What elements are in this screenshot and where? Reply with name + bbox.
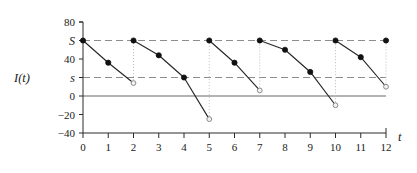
data-point-open-0	[131, 81, 136, 86]
x-tick-label-11: 11	[355, 141, 366, 153]
data-point-filled-5	[207, 38, 212, 43]
data-point-filled-8	[282, 47, 287, 52]
x-tick-label-7: 7	[257, 141, 263, 153]
x-tick-label-8: 8	[282, 141, 288, 153]
data-point-open-3	[333, 103, 338, 108]
data-point-filled-9	[308, 69, 313, 74]
y-axis-ticks-group: 80S40s0−20−40	[58, 16, 83, 139]
data-point-filled-10	[333, 38, 338, 43]
y-tick-label--20: −20	[58, 109, 76, 121]
y-tick-label--40: −40	[58, 127, 76, 139]
series-path-cycle-2	[134, 41, 210, 120]
x-tick-label-1: 1	[106, 141, 112, 153]
y-tick-label-0: 0	[70, 90, 76, 102]
x-tick-label-10: 10	[330, 141, 342, 153]
inventory-level-chart: 80S40s0−20−40 0123456789101112 I(t)t	[0, 0, 417, 173]
x-tick-label-5: 5	[207, 141, 213, 153]
y-tick-label-s: s	[70, 71, 75, 85]
data-point-filled-1	[106, 60, 111, 65]
data-point-filled-3	[156, 53, 161, 58]
data-point-open-4	[384, 84, 389, 89]
data-point-filled-4	[181, 75, 186, 80]
x-axis-label: t	[398, 130, 402, 144]
y-tick-label-80: 80	[64, 16, 76, 28]
chart-canvas: 80S40s0−20−40 0123456789101112 I(t)t	[0, 0, 417, 173]
x-axis-ticks-group: 0123456789101112	[80, 133, 391, 153]
x-tick-label-9: 9	[308, 141, 314, 153]
data-point-filled-0	[80, 38, 85, 43]
reorder-drop-lines-group	[134, 41, 387, 120]
data-point-open-2	[257, 88, 262, 93]
x-tick-label-0: 0	[80, 141, 86, 153]
x-tick-label-6: 6	[232, 141, 238, 153]
data-point-filled-7	[257, 38, 262, 43]
data-point-filled-11	[358, 55, 363, 60]
x-tick-label-2: 2	[131, 141, 137, 153]
x-tick-label-4: 4	[181, 141, 187, 153]
data-points-group	[80, 38, 388, 122]
x-tick-label-12: 12	[381, 141, 392, 153]
y-tick-label-40: 40	[64, 53, 76, 65]
data-series-group	[83, 41, 386, 120]
data-point-filled-12	[383, 38, 388, 43]
y-tick-label-S: S	[69, 34, 75, 48]
reference-lines-group	[83, 41, 386, 97]
data-point-filled-2	[131, 38, 136, 43]
y-axis-label: I(t)	[13, 71, 30, 85]
data-point-open-1	[207, 117, 212, 122]
data-point-filled-6	[232, 60, 237, 65]
series-path-cycle-5	[336, 41, 387, 87]
x-tick-label-3: 3	[156, 141, 162, 153]
